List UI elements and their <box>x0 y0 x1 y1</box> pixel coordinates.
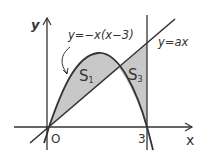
figure: y x O 3 y=−x(x−3) y=ax S1 S3 <box>0 0 210 162</box>
region-s3-subscript: 3 <box>138 75 143 84</box>
x-tick-3-label: 3 <box>138 132 146 146</box>
origin-label: O <box>51 132 60 146</box>
region-s1-letter: S <box>79 67 89 85</box>
y-axis-label: y <box>31 17 40 32</box>
graph: y x O 3 y=−x(x−3) y=ax S1 S3 <box>0 0 210 162</box>
line-label: y=ax <box>157 35 188 49</box>
parabola-label: y=−x(x−3) <box>67 28 134 42</box>
label-pointer-arrow <box>62 47 70 73</box>
region-s3-letter: S <box>128 66 138 84</box>
region-s1-fill <box>49 53 119 127</box>
x-axis-label: x <box>186 132 194 148</box>
region-s1-subscript: 1 <box>89 76 94 85</box>
